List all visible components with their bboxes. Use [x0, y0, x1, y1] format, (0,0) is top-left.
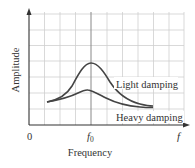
x-tick-f0-subscript: 0	[90, 135, 94, 144]
y-axis-title: Amplitude	[10, 47, 21, 92]
x-axis-arrow-icon	[183, 123, 190, 128]
x-tick-f: f	[177, 130, 182, 142]
annotation-light-damping: Light damping	[116, 79, 179, 90]
series-heavy-damping	[47, 90, 153, 108]
annotation-heavy-damping: Heavy damping	[116, 112, 184, 123]
axes	[27, 8, 191, 128]
grid	[29, 12, 184, 125]
x-tick-zero: 0	[27, 131, 32, 142]
y-axis-arrow-icon	[27, 8, 32, 15]
resonance-chart: Light damping Heavy damping 0 f0 f Frequ…	[0, 0, 195, 168]
x-tick-f0: f0	[87, 131, 94, 144]
x-axis-title: Frequency	[68, 147, 113, 158]
